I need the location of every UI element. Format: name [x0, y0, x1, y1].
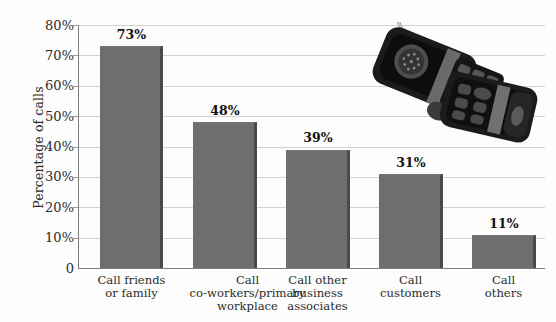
bar-call-friends-or-family[interactable] — [100, 46, 163, 268]
y-tick-0: 0 — [28, 262, 74, 275]
bar-chart: Percentage of calls 80% 70% 60% 50% 40% … — [0, 0, 556, 322]
data-label-bar-1: 73% — [100, 27, 163, 42]
data-label-bar-5: 11% — [472, 216, 536, 231]
y-tick-40: 40% — [28, 140, 74, 153]
bar-call-others[interactable] — [472, 235, 536, 268]
flip-phone-illustration — [330, 22, 550, 147]
category-label-4: Call customers — [365, 274, 456, 300]
category-label-1: Call friends or family — [86, 274, 177, 300]
category-label-4-line2: customers — [365, 287, 456, 300]
bar-call-other-business[interactable] — [286, 150, 350, 269]
y-tick-50: 50% — [28, 110, 74, 123]
category-label-5: Call others — [458, 274, 549, 300]
y-tick-10: 10% — [28, 231, 74, 244]
data-label-bar-4: 31% — [379, 155, 443, 170]
bar-call-customers[interactable] — [379, 174, 443, 268]
bar-call-co-workers[interactable] — [193, 122, 257, 268]
y-tick-70: 70% — [28, 49, 74, 62]
y-tick-60: 60% — [28, 79, 74, 92]
category-label-3-line3: associates — [272, 300, 363, 313]
category-label-1-line2: or family — [86, 287, 177, 300]
category-label-3: Call other business associates — [272, 274, 363, 313]
y-tick-20: 20% — [28, 201, 74, 214]
category-label-5-line2: others — [458, 287, 549, 300]
y-tick-30: 30% — [28, 170, 74, 183]
data-label-bar-2: 48% — [193, 103, 257, 118]
x-axis-line — [78, 268, 545, 269]
y-axis-line — [78, 25, 79, 269]
y-axis-tick-labels: 80% 70% 60% 50% 40% 30% 20% 10% 0 — [22, 0, 74, 322]
y-tick-80: 80% — [28, 19, 74, 32]
